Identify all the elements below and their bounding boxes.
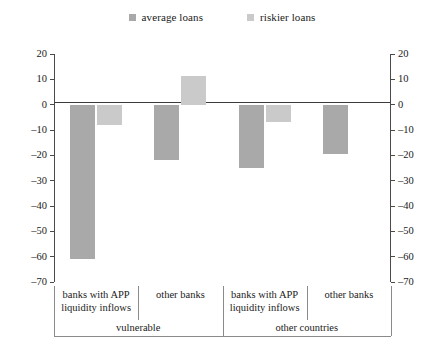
x-axis-label: other banks xyxy=(138,288,222,301)
group-bracket-edge xyxy=(54,286,55,336)
y-tick-mark xyxy=(391,130,395,131)
legend-item-average-loans: average loans xyxy=(129,12,203,23)
y-tick-mark xyxy=(391,231,395,232)
group-bracket-edge xyxy=(223,286,224,336)
y-tick-mark xyxy=(50,256,54,257)
legend-item-riskier-loans: riskier loans xyxy=(247,12,315,23)
bar-riskier-loans xyxy=(97,105,122,125)
y-tick-label: –30 xyxy=(398,176,414,186)
y-tick-mark xyxy=(50,54,54,55)
x-axis-group-label: vulnerable xyxy=(54,322,223,334)
y-tick-mark xyxy=(391,155,395,156)
y-tick-label: –40 xyxy=(31,201,47,211)
legend-label-average-loans: average loans xyxy=(142,12,203,23)
y-tick-label: 0 xyxy=(398,100,403,110)
bars-layer xyxy=(54,54,391,282)
y-tick-mark xyxy=(50,104,54,105)
y-tick-mark xyxy=(391,256,395,257)
x-axis-label: banks with APP liquidity inflows xyxy=(54,288,138,314)
bar-average-loans xyxy=(154,105,179,161)
y-tick-mark xyxy=(50,79,54,80)
y-tick-mark xyxy=(391,54,395,55)
y-tick-label: –50 xyxy=(31,226,47,236)
bar-average-loans xyxy=(239,105,264,168)
y-tick-label: –20 xyxy=(31,150,47,160)
y-tick-mark xyxy=(50,180,54,181)
bar-riskier-loans xyxy=(181,76,206,105)
y-tick-label: –30 xyxy=(31,176,47,186)
bar-average-loans xyxy=(323,105,348,154)
x-axis-label: banks with APP liquidity inflows xyxy=(223,288,307,314)
y-tick-label: –70 xyxy=(31,277,47,287)
y-tick-mark xyxy=(391,282,395,283)
x-axis-group-label: other countries xyxy=(223,322,392,334)
y-tick-mark xyxy=(50,282,54,283)
y-tick-label: –70 xyxy=(398,277,414,287)
y-tick-mark xyxy=(50,231,54,232)
y-tick-label: –50 xyxy=(398,226,414,236)
y-tick-mark xyxy=(50,206,54,207)
group-bracket-edge xyxy=(391,286,392,336)
y-tick-label: 0 xyxy=(42,100,47,110)
y-tick-mark xyxy=(50,155,54,156)
group-bracket-baseline xyxy=(54,336,391,337)
y-tick-label: –40 xyxy=(398,201,414,211)
y-tick-label: 10 xyxy=(398,74,409,84)
y-tick-label: –60 xyxy=(31,252,47,262)
legend-swatch-riskier-loans xyxy=(247,14,254,21)
y-tick-mark xyxy=(391,79,395,80)
bar-riskier-loans xyxy=(266,105,291,123)
y-tick-mark xyxy=(50,130,54,131)
bar-chart: average loans riskier loans 2020101000–1… xyxy=(0,0,444,345)
chart-legend: average loans riskier loans xyxy=(0,12,444,23)
x-axis-label: other banks xyxy=(307,288,391,301)
y-tick-mark xyxy=(391,180,395,181)
y-tick-label: 20 xyxy=(37,49,48,59)
plot-area: 2020101000–10–10–20–20–30–30–40–40–50–50… xyxy=(54,54,391,282)
y-tick-label: 10 xyxy=(37,74,48,84)
category-separator xyxy=(138,286,139,320)
y-tick-label: –20 xyxy=(398,150,414,160)
legend-swatch-average-loans xyxy=(129,14,136,21)
y-tick-mark xyxy=(391,206,395,207)
category-separator xyxy=(307,286,308,320)
bar-average-loans xyxy=(70,105,95,260)
y-tick-mark xyxy=(391,104,395,105)
y-tick-label: 20 xyxy=(398,49,409,59)
y-tick-label: –10 xyxy=(398,125,414,135)
legend-label-riskier-loans: riskier loans xyxy=(260,12,315,23)
y-tick-label: –10 xyxy=(31,125,47,135)
y-tick-label: –60 xyxy=(398,252,414,262)
